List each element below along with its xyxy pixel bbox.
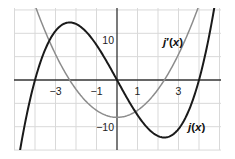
x-tick-label: −1 — [91, 85, 103, 97]
j-label: j(x) — [186, 121, 205, 133]
j-prime-label: j′(x) — [161, 36, 183, 48]
x-tick-label: −3 — [50, 85, 62, 97]
y-tick-label: 10 — [102, 34, 114, 46]
x-tick-label: 1 — [135, 85, 141, 97]
x-tick-label: 3 — [176, 85, 182, 97]
chart: −3−11310−10 j′(x) j(x) — [0, 0, 235, 159]
y-tick-label: −10 — [96, 121, 114, 133]
